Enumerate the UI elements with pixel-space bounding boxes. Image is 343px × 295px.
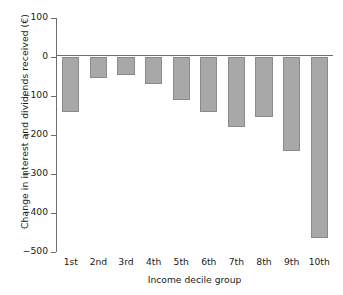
- x-axis-tick-label: 3rd: [112, 256, 140, 267]
- y-axis-tick-mark: [51, 213, 56, 214]
- bar-chart: Change in interest and dividends receive…: [0, 0, 343, 295]
- y-axis-tick-mark: [51, 135, 56, 136]
- plot-area: 1000−100−200−300−400−500: [56, 18, 333, 252]
- y-axis-tick: −500: [56, 252, 57, 253]
- y-axis-tick-mark: [51, 174, 56, 175]
- x-axis-tick-label: 4th: [140, 256, 168, 267]
- x-axis-tick-label: 7th: [223, 256, 251, 267]
- bar: [145, 57, 162, 84]
- bar: [311, 57, 328, 238]
- x-axis-tick-label: 6th: [195, 256, 223, 267]
- y-axis-tick-label: 0: [42, 50, 48, 61]
- y-axis-tick-mark: [51, 18, 56, 19]
- x-axis-tick-label: 5th: [167, 256, 195, 267]
- x-axis-tick-label: 8th: [250, 256, 278, 267]
- bar: [255, 57, 272, 117]
- y-axis-tick-label: −300: [23, 167, 48, 178]
- bar: [90, 57, 107, 78]
- bar: [117, 57, 134, 75]
- x-axis-tick-label: 2nd: [85, 256, 113, 267]
- x-axis-tick-label: 9th: [278, 256, 306, 267]
- x-axis-tick-labels: 1st2nd3rd4th5th6th7th8th9th10th: [57, 256, 333, 270]
- bar: [62, 57, 79, 112]
- y-axis-tick-label: −100: [23, 89, 48, 100]
- bar: [173, 57, 190, 100]
- y-axis-tick-label: 100: [30, 11, 48, 22]
- y-axis-tick-label: −500: [23, 245, 48, 256]
- bar: [228, 57, 245, 127]
- bar-series: [57, 18, 333, 252]
- x-axis-tick-label: 1st: [57, 256, 85, 267]
- x-axis-tick-label: 10th: [305, 256, 333, 267]
- y-axis-tick-label: −400: [23, 206, 48, 217]
- bar: [200, 57, 217, 112]
- y-axis-tick-mark: [51, 96, 56, 97]
- y-axis-tick-mark: [51, 252, 56, 253]
- y-axis-tick-mark: [51, 57, 56, 58]
- bar: [283, 57, 300, 151]
- y-axis-tick-label: −200: [23, 128, 48, 139]
- x-axis-title: Income decile group: [56, 274, 333, 285]
